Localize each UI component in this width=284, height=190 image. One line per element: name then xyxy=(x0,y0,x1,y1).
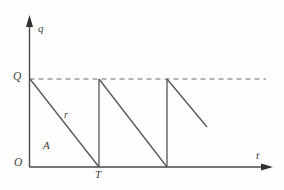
origin-label: O xyxy=(14,157,22,169)
y-axis-label: q xyxy=(38,23,44,34)
inventory-descent-2 xyxy=(99,79,167,167)
x-axis-label: t xyxy=(256,150,259,161)
inventory-descent-1 xyxy=(30,79,99,167)
slope-rate-label: r xyxy=(64,110,68,120)
x-axis-arrow-icon xyxy=(261,164,273,171)
area-label: A xyxy=(43,140,50,151)
q-level-label: Q xyxy=(13,71,21,83)
period-label: T xyxy=(95,169,101,180)
inventory-sawtooth-figure: q Q O T t r A xyxy=(0,0,284,190)
y-axis-arrow-icon xyxy=(26,15,33,27)
inventory-descent-3 xyxy=(167,79,207,127)
